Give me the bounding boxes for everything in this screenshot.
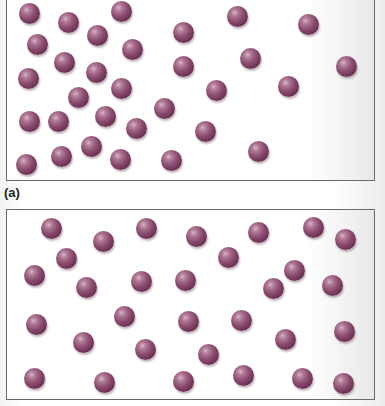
particle-b bbox=[114, 306, 135, 327]
particle-a bbox=[126, 118, 147, 139]
particle-b bbox=[334, 321, 355, 342]
particle-b bbox=[284, 260, 305, 281]
particle-a bbox=[95, 106, 116, 127]
particle-b bbox=[303, 217, 324, 238]
particle-b bbox=[198, 344, 219, 365]
particle-b bbox=[178, 311, 199, 332]
particle-b bbox=[322, 275, 343, 296]
particle-a bbox=[68, 87, 89, 108]
particle-b bbox=[94, 372, 115, 393]
particle-b bbox=[173, 371, 194, 392]
particle-b bbox=[175, 270, 196, 291]
particle-a bbox=[111, 1, 132, 22]
particle-a bbox=[18, 68, 39, 89]
particle-a bbox=[19, 3, 40, 24]
particle-a bbox=[58, 12, 79, 33]
particle-a bbox=[173, 56, 194, 77]
particle-a bbox=[48, 111, 69, 132]
particle-b bbox=[136, 218, 157, 239]
particle-b bbox=[333, 373, 354, 394]
particle-b bbox=[93, 231, 114, 252]
particle-b bbox=[292, 368, 313, 389]
particle-b bbox=[76, 277, 97, 298]
particle-a bbox=[111, 78, 132, 99]
particle-a bbox=[154, 98, 175, 119]
particle-a bbox=[161, 150, 182, 171]
particle-a bbox=[86, 62, 107, 83]
particle-b bbox=[248, 222, 269, 243]
particle-a bbox=[54, 52, 75, 73]
particle-b bbox=[275, 329, 296, 350]
particle-a bbox=[81, 136, 102, 157]
particle-b bbox=[56, 248, 77, 269]
particle-a bbox=[278, 76, 299, 97]
particle-a bbox=[87, 25, 108, 46]
particle-b bbox=[26, 314, 47, 335]
particle-a bbox=[16, 154, 37, 175]
particle-a bbox=[298, 14, 319, 35]
particle-a bbox=[248, 141, 269, 162]
particle-a bbox=[336, 56, 357, 77]
particle-a bbox=[51, 146, 72, 167]
particle-b bbox=[263, 278, 284, 299]
particle-a bbox=[240, 48, 261, 69]
particle-a bbox=[195, 121, 216, 142]
particle-a bbox=[122, 39, 143, 60]
particle-a bbox=[19, 111, 40, 132]
particle-b bbox=[135, 339, 156, 360]
particle-a bbox=[110, 149, 131, 170]
particle-b bbox=[131, 271, 152, 292]
particle-a bbox=[227, 6, 248, 27]
particle-b bbox=[24, 368, 45, 389]
particle-b bbox=[335, 229, 356, 250]
particle-a bbox=[27, 34, 48, 55]
panel-a-label: (a) bbox=[4, 185, 20, 200]
particle-b bbox=[218, 247, 239, 268]
particle-a bbox=[206, 80, 227, 101]
particle-a bbox=[173, 22, 194, 43]
particle-b bbox=[233, 365, 254, 386]
particle-b bbox=[41, 218, 62, 239]
particle-b bbox=[24, 265, 45, 286]
particle-b bbox=[231, 310, 252, 331]
particle-b bbox=[186, 226, 207, 247]
particle-b bbox=[73, 332, 94, 353]
